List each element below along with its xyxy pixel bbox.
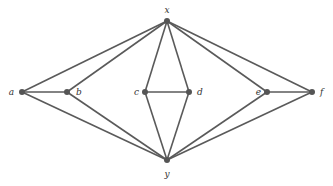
edge-y-d [167, 92, 189, 160]
edge-y-c [145, 92, 167, 160]
node-label-f: f [319, 87, 325, 97]
edge-x-b [67, 21, 167, 92]
node-a [19, 89, 25, 95]
node-c [142, 89, 148, 95]
edge-x-c [145, 21, 167, 92]
node-label-c: c [134, 87, 139, 97]
node-label-e: e [256, 87, 261, 97]
node-label-y: y [163, 169, 170, 179]
edge-y-b [67, 92, 167, 160]
edge-x-e [167, 21, 267, 92]
node-y [164, 157, 170, 163]
edge-y-a [22, 92, 167, 160]
node-f [309, 89, 315, 95]
node-x [164, 18, 170, 24]
edge-x-f [167, 21, 312, 92]
node-d [186, 89, 192, 95]
edge-x-d [167, 21, 189, 92]
graph-nodes [19, 18, 315, 163]
node-label-b: b [76, 87, 82, 97]
node-label-d: d [197, 87, 203, 97]
node-b [64, 89, 70, 95]
node-label-a: a [9, 87, 14, 97]
edge-y-f [167, 92, 312, 160]
graph-diagram: xyabcdef [0, 0, 333, 186]
edge-x-a [22, 21, 167, 92]
node-e [264, 89, 270, 95]
node-label-x: x [164, 5, 169, 15]
edge-y-e [167, 92, 267, 160]
